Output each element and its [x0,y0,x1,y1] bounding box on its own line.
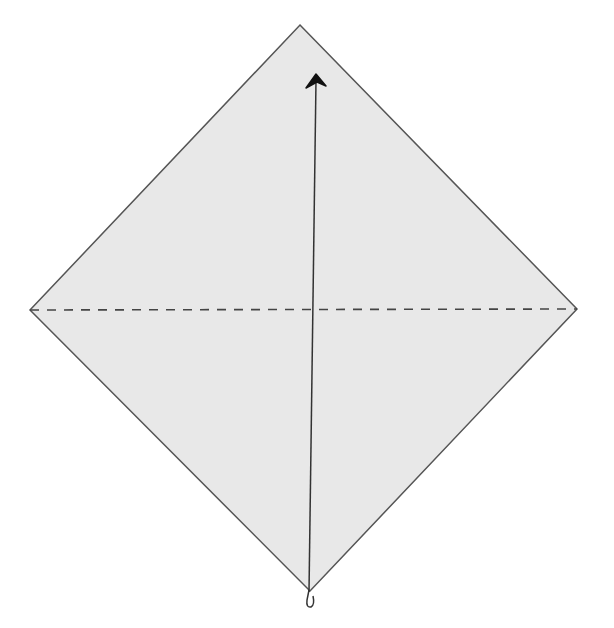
paper-square [30,25,577,591]
fold-arrow-tail-hook [307,590,314,607]
origami-diagram [0,0,614,628]
